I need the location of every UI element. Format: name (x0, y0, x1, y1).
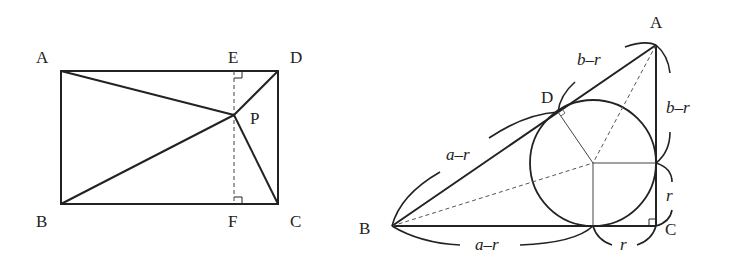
label-e-left: E (228, 48, 238, 67)
arc-fc-right (637, 226, 656, 245)
right-angle-mark-f (234, 197, 242, 204)
segment-pa (61, 71, 234, 115)
dashed-bisector-a (593, 45, 656, 163)
label-a-right: A (650, 13, 663, 32)
label-p-left: P (250, 109, 259, 128)
arc-ae-lower (656, 132, 670, 163)
label-c-left: C (290, 212, 301, 231)
arc-ae-upper (656, 45, 670, 73)
arc-bf-right (520, 226, 593, 245)
arc-bf-left (392, 226, 460, 245)
label-a-left: A (36, 48, 49, 67)
label-length-ad: b–r (577, 50, 601, 69)
label-b-right: B (359, 219, 370, 238)
label-length-bd: a–r (446, 145, 470, 164)
label-d-left: D (290, 48, 302, 67)
label-d-right: D (541, 88, 553, 107)
label-length-fc: r (620, 235, 627, 254)
label-f-left: F (228, 212, 237, 231)
hypotenuse-ab (392, 45, 656, 226)
segment-pb (61, 115, 234, 204)
left-figure: A E D P B F C (36, 48, 302, 231)
label-length-ae: b–r (666, 98, 690, 117)
label-length-bf: a–r (475, 235, 499, 254)
arc-ec-upper (656, 163, 672, 182)
label-c-right: C (665, 220, 676, 239)
label-length-ec: r (666, 186, 673, 205)
right-angle-mark-c (649, 219, 656, 226)
diagram-canvas: A E D P B F C (0, 0, 733, 264)
arc-bd-upper (489, 112, 558, 138)
right-figure: A B C D b–r b–r a–r a–r r r (359, 13, 690, 254)
arc-fc-left (593, 226, 612, 245)
segment-pc (234, 115, 278, 204)
dashed-bisector-b (392, 163, 593, 226)
radius-to-d (558, 112, 593, 163)
right-angle-mark-e (234, 71, 242, 78)
arc-da-upper (625, 43, 656, 47)
label-b-left: B (36, 212, 47, 231)
